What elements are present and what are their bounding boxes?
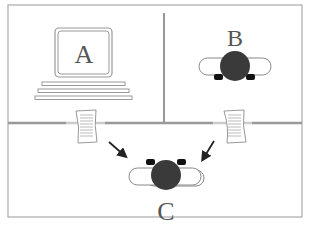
room-label-a: A: [75, 40, 94, 69]
document-icon: [76, 110, 97, 143]
document-icon: [224, 110, 246, 143]
room-label-b: B: [227, 25, 243, 51]
office-diagram: A B: [0, 0, 312, 234]
room-label-c: C: [157, 197, 174, 226]
